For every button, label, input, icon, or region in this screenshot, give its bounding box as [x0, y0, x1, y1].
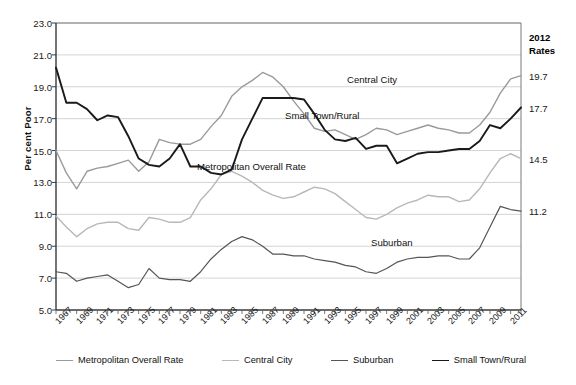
legend-label: Central City — [244, 355, 293, 365]
x-axis-tick-label: 1981 — [198, 305, 219, 326]
legend-label: Metropolitan Overall Rate — [78, 355, 183, 365]
legend-label: Suburban — [353, 355, 393, 365]
series-label-central-city: Central City — [347, 74, 397, 85]
right-axis-rate-label: 11.2 — [529, 206, 547, 217]
x-axis-tick-label: 1979 — [177, 305, 198, 326]
x-axis-tick-label: 1969 — [74, 305, 95, 326]
legend-label: Small Town/Rural — [454, 355, 526, 365]
x-axis-tick-label: 1985 — [239, 305, 260, 326]
x-axis-tick-label: 1973 — [115, 305, 136, 326]
chart-legend: Metropolitan Overall RateCentral CitySub… — [56, 352, 532, 368]
x-axis-tick-label: 1987 — [260, 305, 281, 326]
right-axis-rate-label: 14.5 — [529, 153, 548, 164]
x-axis-tick-label: 2011 — [508, 305, 529, 326]
legend-swatch-icon — [432, 360, 449, 361]
legend-swatch-icon — [331, 360, 348, 361]
legend-item-central-city[interactable]: Central City — [222, 355, 293, 365]
legend-item-suburban[interactable]: Suburban — [331, 355, 393, 365]
x-axis-tick-label: 1995 — [342, 305, 363, 326]
legend-swatch-icon — [56, 360, 73, 361]
x-axis-tick-label: 2005 — [446, 305, 467, 326]
x-axis-tick-label: 1977 — [156, 305, 177, 326]
series-label-suburban: Suburban — [371, 237, 413, 248]
x-axis-tick-label: 1989 — [280, 305, 301, 326]
right-axis-rate-labels: 19.717.714.511.2 — [529, 0, 575, 385]
x-axis-tick-label: 2009 — [487, 305, 508, 326]
poverty-rate-line-chart: Per cent Poor 23.021.019.017.015.013.011… — [0, 0, 576, 385]
x-axis-tick-label: 1971 — [94, 305, 115, 326]
x-axis-tick-label: 1993 — [322, 305, 343, 326]
series-label-metropolitan-overall-rate: Metropolitan Overall Rate — [197, 161, 306, 172]
x-axis-tick-label: 1983 — [218, 305, 239, 326]
legend-item-metropolitan-overall-rate[interactable]: Metropolitan Overall Rate — [56, 355, 183, 365]
right-axis-rate-label: 19.7 — [529, 70, 548, 81]
x-axis-tick-label: 1975 — [136, 305, 157, 326]
series-label-small-town-rural: Small Town/Rural — [285, 110, 359, 121]
x-axis-tick-label: 2003 — [425, 305, 446, 326]
x-axis-tick-label: 1967 — [53, 305, 74, 326]
x-axis-tick-label: 2007 — [466, 305, 487, 326]
legend-swatch-icon — [222, 360, 239, 361]
x-axis-tick-label: 1997 — [363, 305, 384, 326]
right-axis-rate-label: 17.7 — [529, 102, 548, 113]
x-axis-tick-label: 2001 — [404, 305, 425, 326]
x-axis-tick-label: 1991 — [301, 305, 322, 326]
legend-item-small-town-rural[interactable]: Small Town/Rural — [432, 355, 526, 365]
x-axis-tick-labels: 1967196919711973197519771979198119831985… — [0, 0, 576, 385]
x-axis-tick-label: 1999 — [384, 305, 405, 326]
